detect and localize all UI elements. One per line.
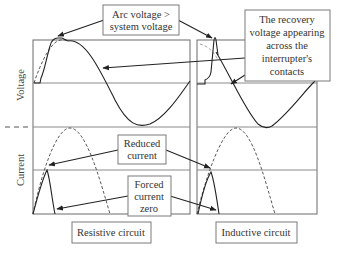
arc-voltage-callout: Arc voltage > system voltage [103,5,179,35]
svg-text:contacts: contacts [270,66,304,77]
reduced-current-callout: Reduced current [118,135,166,164]
circuit-interruption-diagram: Voltage Current [0,0,337,253]
svg-text:current: current [134,191,164,202]
voltage-axis-label: Voltage [15,69,26,101]
recovery-voltage-callout: The recovery voltage appearing across th… [245,10,330,81]
arc-voltage-arrow-left [58,20,104,36]
svg-text:current: current [127,150,157,161]
svg-text:voltage appearing: voltage appearing [250,27,326,38]
resistive-reduced-current [33,170,55,214]
arc-voltage-arrow-right [178,20,212,38]
forced-zero-arrow-right [170,196,216,210]
inductive-caption: Inductive circuit [216,222,297,243]
resistive-system-voltage-dashed [34,40,68,83]
svg-text:The recovery: The recovery [259,14,315,25]
svg-text:zero: zero [140,203,158,214]
svg-text:Arc voltage >: Arc voltage > [112,9,170,20]
reduced-current-arrow-right [166,150,210,168]
forced-zero-arrow-left [57,196,128,209]
forced-zero-callout: Forced current zero [128,176,171,216]
reduced-current-arrow-left [49,150,118,165]
resistive-arc-voltage [34,38,68,83]
inductive-prospective-voltage-dashed [200,44,218,60]
inductive-prospective-current [197,128,275,214]
resistive-caption: Resistive circuit [72,222,151,243]
svg-text:Resistive circuit: Resistive circuit [77,227,145,238]
svg-text:system voltage: system voltage [110,21,173,32]
svg-text:Inductive circuit: Inductive circuit [221,227,290,238]
svg-text:interrupter's: interrupter's [262,53,312,64]
current-axis-label: Current [15,154,26,186]
svg-text:Reduced: Reduced [124,138,161,149]
svg-text:Forced: Forced [134,179,164,190]
svg-text:across the: across the [266,40,308,51]
